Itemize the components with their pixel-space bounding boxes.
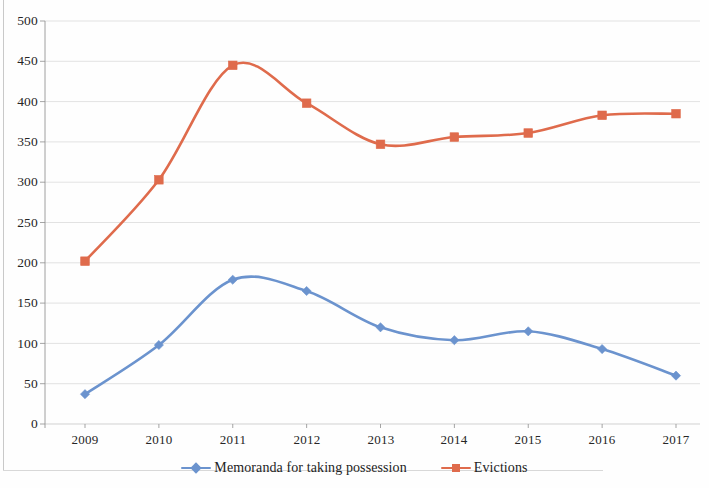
gridlines bbox=[45, 21, 700, 424]
chart-legend: Memoranda for taking possession Eviction… bbox=[0, 455, 709, 481]
data-point-marker bbox=[450, 133, 459, 142]
data-point-marker bbox=[376, 323, 385, 332]
data-point-marker bbox=[672, 109, 681, 118]
data-point-marker bbox=[598, 344, 607, 353]
data-point-marker bbox=[598, 111, 607, 120]
data-point-marker bbox=[228, 275, 237, 284]
data-point-marker bbox=[81, 257, 90, 266]
line-chart: 500 450 400 350 300 250 200 150 100 50 0… bbox=[0, 0, 709, 488]
plot-area bbox=[0, 0, 709, 488]
legend-item-memoranda[interactable]: Memoranda for taking possession bbox=[181, 460, 406, 476]
legend-key-square-icon bbox=[441, 462, 471, 474]
data-point-marker bbox=[228, 61, 237, 70]
axis-ticks bbox=[40, 21, 676, 428]
data-point-marker bbox=[302, 99, 311, 108]
data-point-marker bbox=[302, 286, 311, 295]
data-point-marker bbox=[671, 371, 680, 380]
data-point-marker bbox=[376, 140, 385, 149]
series-line-evictions bbox=[85, 63, 676, 261]
legend-key-diamond-icon bbox=[181, 462, 211, 474]
data-point-marker bbox=[524, 327, 533, 336]
data-point-marker bbox=[155, 175, 164, 184]
series-line-memoranda bbox=[85, 277, 676, 395]
legend-item-evictions[interactable]: Evictions bbox=[441, 460, 528, 476]
series-markers bbox=[80, 61, 680, 399]
series-lines bbox=[85, 63, 676, 394]
data-point-marker bbox=[524, 129, 533, 138]
legend-label: Memoranda for taking possession bbox=[214, 460, 406, 476]
legend-label: Evictions bbox=[474, 460, 528, 476]
